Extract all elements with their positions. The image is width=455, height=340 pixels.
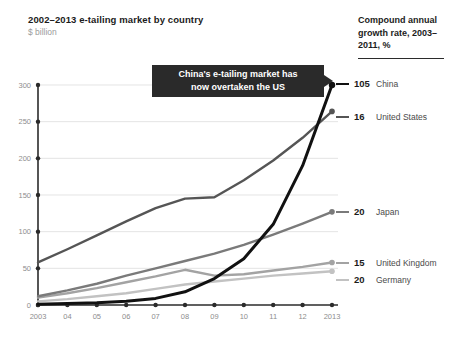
x-axis-tick-dot (212, 303, 216, 307)
series-line-united-states (38, 111, 332, 262)
legend-line-swatch-china (336, 83, 349, 85)
y-axis-tick-label: 150 (18, 191, 31, 200)
x-axis-tick-dot (242, 303, 246, 307)
x-axis-tick-label: 11 (269, 312, 277, 321)
x-axis-tick-label: 2013 (324, 312, 341, 321)
legend-line-swatch-germany (336, 279, 349, 281)
legend-value-germany: 20 (354, 274, 371, 285)
x-axis-tick-dot (183, 303, 187, 307)
x-axis-tick-dot (330, 303, 334, 307)
legend-line-swatch-united-states (336, 116, 349, 118)
legend-label-germany: Germany (376, 275, 411, 285)
x-axis-tick-dot (271, 303, 275, 307)
x-axis-tick-label: 09 (210, 312, 218, 321)
chart-page: 2002–2013 e-tailing market by country $ … (0, 0, 455, 340)
legend-line-swatch-japan (336, 211, 349, 213)
annotation-line-1: China's e-tailing market has (178, 69, 297, 79)
x-axis-tick-dot (300, 303, 304, 307)
x-axis-tick-label: 08 (181, 312, 189, 321)
legend-label-china: China (376, 79, 398, 89)
series-endpoint-united-kingdom (329, 260, 335, 266)
legend-item-united-states[interactable]: 16 United States (336, 111, 427, 122)
annotation-line-2: now overtaken the US (191, 82, 285, 92)
x-axis-tick-label: 12 (298, 312, 306, 321)
legend-line-swatch-united-kingdom (336, 262, 349, 264)
series-endpoint-japan (329, 209, 335, 215)
y-axis-tick-label: 250 (18, 117, 31, 126)
y-axis-tick-label: 100 (18, 227, 31, 236)
legend-label-united-states: United States (376, 112, 427, 122)
legend-label-japan: Japan (376, 207, 399, 217)
x-axis-tick-label: 05 (93, 312, 101, 321)
legend-value-united-states: 16 (354, 111, 371, 122)
legend-item-japan[interactable]: 20 Japan (336, 206, 399, 217)
legend-value-china: 105 (354, 78, 371, 89)
x-axis-tick-label: 06 (122, 312, 130, 321)
y-axis-tick-label: 200 (18, 154, 31, 163)
legend-item-germany[interactable]: 20 Germany (336, 274, 411, 285)
y-axis-tick-label: 0 (27, 301, 31, 310)
annotation-callout: China's e-tailing market has now overtak… (152, 65, 324, 97)
legend-value-united-kingdom: 15 (354, 257, 371, 268)
line-chart-canvas: 0501001502002503002003040506070809101112… (0, 0, 455, 340)
x-axis-tick-label: 04 (63, 312, 71, 321)
y-axis-tick-label: 300 (18, 81, 31, 90)
x-axis-tick-label: 10 (240, 312, 248, 321)
y-axis-tick-label: 50 (23, 264, 31, 273)
series-endpoint-united-states (329, 109, 335, 115)
x-axis-tick-dot (124, 303, 128, 307)
legend-item-united-kingdom[interactable]: 15 United Kingdom (336, 257, 436, 268)
legend-label-united-kingdom: United Kingdom (376, 258, 436, 268)
x-axis-tick-label: 2003 (30, 312, 47, 321)
annotation-arrow-icon (324, 75, 333, 87)
annotation-text: China's e-tailing market has now overtak… (178, 68, 297, 94)
legend-item-china[interactable]: 105 China (336, 78, 398, 89)
series-endpoint-germany (329, 268, 335, 274)
x-axis-tick-dot (153, 303, 157, 307)
x-axis-tick-label: 07 (151, 312, 159, 321)
series-line-china (38, 85, 332, 304)
legend-value-japan: 20 (354, 206, 371, 217)
